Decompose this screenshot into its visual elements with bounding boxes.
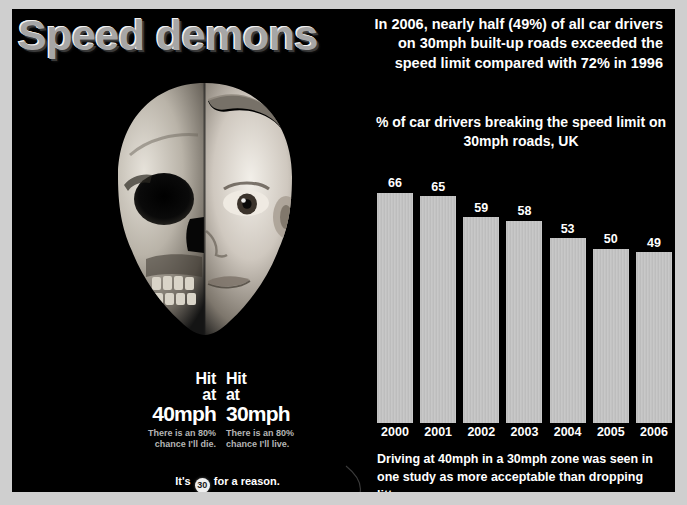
chart-title: % of car drivers breaking the speed limi… [375, 113, 667, 151]
hit-comparison-block: Hit at 40mph There is an 80% chance I'll… [120, 371, 335, 450]
bar-column: 58 [506, 161, 542, 423]
hit-40mph-subtext: There is an 80% chance I'll die. [120, 428, 216, 450]
x-axis-tick-2006: 2006 [636, 425, 672, 439]
bar [377, 193, 413, 423]
tagline: It's 30 for a reason. [120, 475, 335, 492]
hit-40mph-line3: 40mph [152, 402, 216, 425]
tagline-prefix: It's [175, 475, 190, 487]
bar-column: 66 [377, 161, 413, 423]
speed-limit-roundel-icon: 30 [195, 478, 210, 492]
hit-30mph-line2: at [226, 386, 240, 403]
bar-column: 49 [636, 161, 672, 423]
x-axis-tick-2005: 2005 [593, 425, 629, 439]
x-axis-tick-2003: 2003 [506, 425, 542, 439]
bar-value-label: 49 [647, 237, 661, 250]
hit-40mph-line1: Hit [196, 370, 216, 387]
bar-column: 53 [550, 161, 586, 423]
bar-value-label: 65 [431, 181, 445, 194]
hit-30mph-line1: Hit [226, 370, 246, 387]
chart-caption: Driving at 40mph in a 30mph zone was see… [377, 451, 669, 492]
x-axis-tick-labels: 2000200120022003200420052006 [377, 425, 672, 439]
bar-value-label: 59 [474, 202, 488, 215]
bar [463, 217, 499, 423]
hit-30mph-column: Hit at 30mph There is an 80% chance I'll… [226, 371, 322, 450]
bar [506, 221, 542, 423]
x-axis-tick-2002: 2002 [463, 425, 499, 439]
skull-face-image [90, 81, 320, 339]
bar-chart: 66655958535049 [377, 161, 672, 423]
hit-40mph-line2: at [202, 386, 216, 403]
hit-40mph-column: Hit at 40mph There is an 80% chance I'll… [120, 371, 216, 450]
page-title: Speed demons [18, 13, 318, 58]
poster-canvas: Speed demons [12, 9, 675, 492]
hit-30mph-line3: 30mph [226, 402, 290, 425]
bar-series: 66655958535049 [377, 161, 672, 423]
bar-value-label: 50 [604, 233, 618, 246]
bar-value-label: 53 [561, 223, 575, 236]
x-axis-tick-2004: 2004 [550, 425, 586, 439]
bar-value-label: 58 [518, 205, 532, 218]
bar-column: 50 [593, 161, 629, 423]
x-axis-tick-2000: 2000 [377, 425, 413, 439]
hit-30mph-subtext: There is an 80% chance I'll live. [226, 428, 322, 450]
skull-face-illustration [90, 81, 320, 339]
headline-text: In 2006, nearly half (49%) of all car dr… [367, 15, 663, 73]
bar [420, 196, 456, 423]
bar [636, 252, 672, 423]
bar [593, 249, 629, 423]
bar-column: 65 [420, 161, 456, 423]
bar [550, 238, 586, 423]
infographic-poster: Speed demons [0, 0, 687, 505]
tagline-suffix: for a reason. [214, 475, 280, 487]
bar-value-label: 66 [388, 177, 402, 190]
hit-40mph-heading: Hit at 40mph [120, 371, 216, 424]
hit-30mph-heading: Hit at 30mph [226, 371, 322, 424]
x-axis-tick-2001: 2001 [420, 425, 456, 439]
right-panel: In 2006, nearly half (49%) of all car dr… [367, 9, 675, 492]
bar-column: 59 [463, 161, 499, 423]
